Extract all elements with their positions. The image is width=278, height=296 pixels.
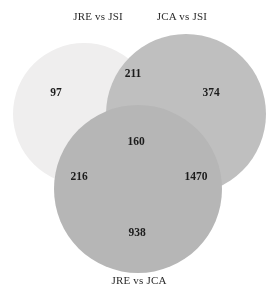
venn-circles-svg xyxy=(0,0,278,296)
venn-circle-jre-vs-jca xyxy=(54,105,222,273)
venn-diagram-figure: JRE vs JSI JCA vs JSI JRE vs JCA 9721137… xyxy=(0,0,278,296)
